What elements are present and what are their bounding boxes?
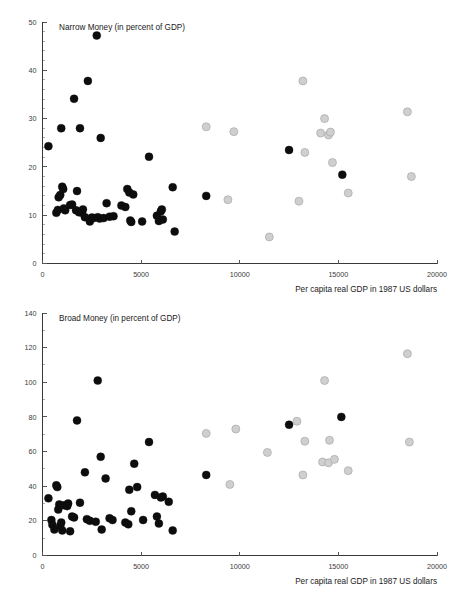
y-tick-label: 100	[25, 378, 37, 387]
x-axis-ticks: 05000100001500020000	[41, 260, 448, 279]
y-tick-label: 10	[29, 211, 37, 220]
x-tick-label: 0	[41, 562, 45, 571]
data-point-dark	[338, 171, 346, 179]
y-tick-label: 0	[33, 551, 37, 560]
data-point-dark	[93, 32, 101, 40]
axis-lines	[43, 313, 438, 556]
data-point-dark	[202, 192, 210, 200]
data-point-dark	[76, 124, 84, 132]
data-point-light	[321, 115, 329, 123]
data-point-light	[344, 467, 352, 475]
data-point-light	[265, 233, 273, 241]
x-tick-label: 15000	[328, 270, 348, 279]
data-point-light	[230, 128, 238, 136]
x-tick-label: 15000	[328, 562, 348, 571]
data-point-dark	[127, 507, 135, 515]
data-point-dark	[76, 499, 84, 507]
chart-panel-broad-money: 020406080100120140 05000100001500020000 …	[0, 300, 465, 616]
data-point-dark	[138, 217, 146, 225]
broad-money-axes	[43, 313, 438, 556]
data-point-dark	[169, 183, 177, 191]
data-point-light	[344, 189, 352, 197]
y-tick-label: 40	[29, 482, 37, 491]
data-point-light	[263, 448, 271, 456]
series-title-label: Narrow Money (in percent of GDP)	[59, 23, 185, 32]
data-point-light	[293, 417, 301, 425]
data-point-dark	[285, 421, 293, 429]
data-point-light	[301, 437, 309, 445]
data-point-dark	[98, 526, 106, 534]
axis-lines	[43, 22, 438, 264]
data-point-light	[295, 197, 303, 205]
y-tick-label: 50	[29, 18, 37, 27]
data-point-dark	[79, 205, 87, 213]
y-tick-label: 120	[25, 343, 37, 352]
x-tick-label: 20000	[427, 270, 447, 279]
data-point-light	[299, 471, 307, 479]
data-point-dark	[145, 438, 153, 446]
data-point-dark	[125, 486, 133, 494]
data-point-dark	[73, 416, 81, 424]
data-point-dark	[133, 483, 141, 491]
data-point-light	[224, 196, 232, 204]
x-tick-label: 5000	[133, 270, 149, 279]
data-point-light	[232, 425, 240, 433]
data-point-light	[301, 148, 309, 156]
data-point-light	[326, 128, 334, 136]
data-point-dark	[94, 377, 102, 385]
data-point-dark	[81, 468, 89, 476]
y-tick-label: 60	[29, 447, 37, 456]
data-point-layer	[44, 350, 413, 536]
data-point-dark	[70, 513, 78, 521]
chart-panel-narrow-money: 01020304050 05000100001500020000 Narrow …	[0, 0, 465, 300]
x-tick-label: 10000	[230, 270, 250, 279]
y-tick-label: 0	[33, 259, 37, 268]
data-point-dark	[44, 494, 52, 502]
data-point-dark	[97, 134, 105, 142]
data-point-dark	[84, 77, 92, 85]
data-point-dark	[169, 526, 177, 534]
data-point-dark	[57, 519, 65, 527]
data-point-dark	[121, 203, 129, 211]
data-point-dark	[155, 519, 163, 527]
series-title-label: Broad Money (in percent of GDP)	[59, 314, 181, 323]
data-point-light	[299, 77, 307, 85]
data-point-dark	[64, 500, 72, 508]
data-point-dark	[70, 95, 78, 103]
data-point-dark	[57, 124, 65, 132]
y-tick-label: 20	[29, 163, 37, 172]
x-axis-ticks: 05000100001500020000	[41, 552, 448, 571]
data-point-dark	[66, 527, 74, 535]
data-point-dark	[97, 453, 105, 461]
data-point-dark	[139, 516, 147, 524]
data-point-dark	[59, 185, 67, 193]
data-point-dark	[124, 520, 132, 528]
data-point-light	[403, 108, 411, 116]
data-point-dark	[53, 483, 61, 491]
data-point-dark	[44, 142, 52, 150]
data-point-dark	[159, 216, 167, 224]
data-point-dark	[158, 205, 166, 213]
y-tick-label: 40	[29, 66, 37, 75]
data-point-light	[317, 129, 325, 137]
data-point-layer	[44, 32, 415, 241]
x-tick-label: 5000	[133, 562, 149, 571]
x-tick-label: 20000	[427, 562, 447, 571]
data-point-light	[321, 377, 329, 385]
data-point-dark	[127, 218, 135, 226]
data-point-dark	[73, 187, 81, 195]
y-tick-label: 20	[29, 516, 37, 525]
x-tick-label: 10000	[230, 562, 250, 571]
x-axis-title: Per capita real GDP in 1987 US dollars	[295, 285, 437, 294]
data-point-light	[330, 455, 338, 463]
x-tick-label: 0	[41, 270, 45, 279]
y-tick-label: 140	[25, 309, 37, 318]
x-axis-title: Per capita real GDP in 1987 US dollars	[295, 577, 437, 586]
data-point-light	[328, 159, 336, 167]
data-point-dark	[110, 212, 118, 220]
broad-money-scatter-plot: 020406080100120140 05000100001500020000 …	[0, 300, 465, 616]
data-point-dark	[58, 526, 66, 534]
y-tick-label: 80	[29, 413, 37, 422]
data-point-dark	[129, 190, 137, 198]
y-axis-ticks: 020406080100120140	[25, 309, 47, 560]
